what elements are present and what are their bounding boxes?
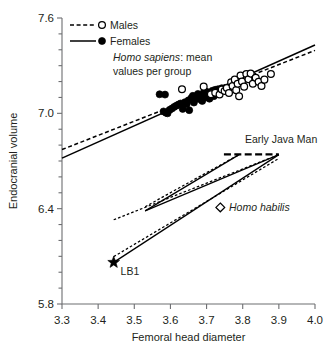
data-point-males — [179, 86, 186, 93]
x-tick-label: 4.0 — [307, 314, 323, 326]
x-tick-label: 3.3 — [54, 314, 70, 326]
legend-label-males: Males — [110, 19, 138, 31]
data-point-males — [200, 83, 207, 90]
legend-marker-males — [99, 22, 106, 29]
y-tick-label: 5.8 — [38, 298, 54, 310]
annotation-lb1: LB1 — [121, 265, 140, 277]
y-tick-label: 6.4 — [38, 203, 55, 215]
y-axis-title: Endocranial volume — [7, 113, 19, 210]
data-point-males — [241, 83, 248, 90]
x-tick-label: 3.8 — [235, 314, 251, 326]
data-point-females — [186, 107, 193, 114]
caption-line-2: values per group — [113, 65, 191, 77]
data-point-males — [268, 71, 275, 78]
x-tick-label: 3.6 — [162, 314, 178, 326]
data-point-males — [236, 93, 243, 100]
x-tick-label: 3.7 — [199, 314, 215, 326]
annotation-early-java-man: Early Java Man — [245, 133, 318, 145]
homo-habilis-marker — [216, 203, 225, 212]
legend-label-females: Females — [110, 35, 150, 47]
x-tick-label: 3.4 — [90, 314, 107, 326]
x-axis-title: Femoral head diameter — [132, 331, 246, 343]
data-point-females — [162, 91, 169, 98]
y-tick-label: 7.6 — [38, 12, 54, 24]
legend-marker-females — [99, 38, 106, 45]
data-point-males — [261, 76, 268, 83]
caption-line-1: Homo sapiens: mean — [113, 51, 212, 63]
x-tick-label: 3.5 — [126, 314, 142, 326]
chart-container: 5.86.47.07.63.33.43.53.63.73.83.94.0Femo… — [0, 0, 336, 347]
scatter-plot: 5.86.47.07.63.33.43.53.63.73.83.94.0Femo… — [0, 0, 336, 347]
y-tick-label: 7.0 — [38, 107, 54, 119]
annotation-homo-habilis: Homo habilis — [229, 201, 290, 213]
data-point-males — [226, 90, 233, 97]
lb1-marker — [108, 256, 120, 267]
x-tick-label: 3.9 — [271, 314, 287, 326]
